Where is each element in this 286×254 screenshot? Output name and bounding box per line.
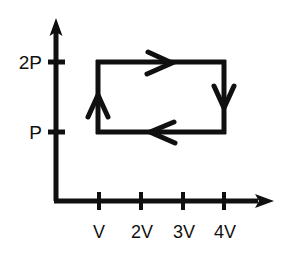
volume-axis: [54, 192, 274, 210]
pressure-tick-label-2p: 2P: [19, 52, 42, 73]
thermodynamic-cycle-path: [96, 60, 226, 134]
volume-tick-label-3v: 3V: [173, 222, 195, 242]
pv-diagram-canvas: 2P P V 2V 3V 4V: [0, 0, 286, 254]
volume-tick-label-v: V: [93, 222, 105, 242]
pv-diagram-figure: 2P P V 2V 3V 4V: [0, 0, 286, 254]
pressure-axis: [48, 18, 65, 201]
volume-tick-label-4v: 4V: [214, 222, 236, 242]
volume-tick-label-2v: 2V: [131, 222, 153, 242]
pressure-tick-label-p: P: [29, 122, 42, 143]
